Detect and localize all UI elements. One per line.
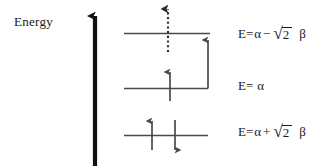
nonbonding-energy-equation: E= α xyxy=(238,78,264,94)
bonding-energy-equation: E= α + √ 2 β xyxy=(238,124,306,140)
square-root-group: √ 2 xyxy=(273,125,292,140)
alpha-symbol: α xyxy=(254,124,261,140)
equation-lhs: E= xyxy=(238,26,253,42)
radicand-value: 2 xyxy=(282,125,293,140)
operator-symbol: + xyxy=(263,124,270,140)
energy-axis-label: Energy xyxy=(14,14,53,30)
beta-symbol: β xyxy=(299,26,306,42)
beta-symbol: β xyxy=(299,124,306,140)
square-root-group: √ 2 xyxy=(273,27,292,42)
operator-symbol: − xyxy=(263,26,270,42)
radical-sign: √ xyxy=(273,126,282,138)
equation-lhs: E= xyxy=(238,78,253,94)
alpha-symbol: α xyxy=(257,78,264,94)
alpha-symbol: α xyxy=(254,26,261,42)
radicand-value: 2 xyxy=(282,27,293,42)
equation-lhs: E= xyxy=(238,124,253,140)
antibonding-energy-equation: E= α − √ 2 β xyxy=(238,26,306,42)
radical-sign: √ xyxy=(273,28,282,40)
energy-level-diagram: Energy E= α − √ 2 β E= α E= α + √ 2 β xyxy=(0,0,335,166)
